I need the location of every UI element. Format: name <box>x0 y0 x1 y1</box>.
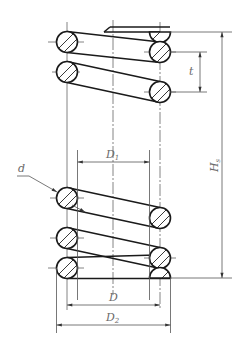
label-inner-diameter: D1 <box>106 149 119 162</box>
spring-drawing <box>0 0 241 349</box>
dim-wire-leader <box>29 176 57 192</box>
label-wire-diameter: d <box>18 163 25 174</box>
dimension-lines <box>17 32 232 333</box>
label-outer-diameter: D2 <box>106 312 119 325</box>
label-pitch: t <box>189 66 193 77</box>
label-mean-diameter: D <box>109 292 118 303</box>
label-solid-height: Hs <box>209 159 222 172</box>
